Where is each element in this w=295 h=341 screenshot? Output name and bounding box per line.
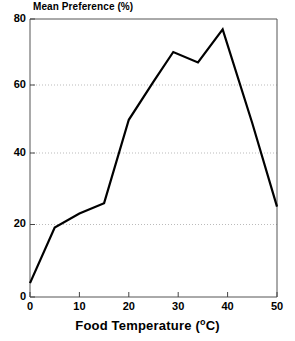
ytick-label-60: 60	[2, 78, 26, 90]
data-series-line	[30, 29, 277, 283]
xtick-label-10: 10	[67, 300, 91, 312]
plot-frame	[30, 19, 277, 297]
xtick-label-50: 50	[265, 300, 289, 312]
x-tick-marks	[30, 292, 277, 297]
x-axis-title-unit: C)	[206, 318, 220, 333]
xtick-label-40: 40	[216, 300, 240, 312]
y-tick-marks	[30, 19, 35, 297]
gridlines	[30, 85, 277, 225]
x-axis-title: Food Temperature (oC)	[0, 317, 295, 333]
ytick-label-80: 80	[2, 12, 26, 24]
plot-area	[0, 0, 295, 341]
xtick-label-30: 30	[166, 300, 190, 312]
ytick-label-40: 40	[2, 146, 26, 158]
x-axis-title-main: Food Temperature (	[75, 318, 200, 333]
ytick-label-20: 20	[2, 217, 26, 229]
xtick-label-20: 20	[117, 300, 141, 312]
chart-figure: Mean Preference (%)	[0, 0, 295, 341]
xtick-label-0: 0	[18, 300, 42, 312]
